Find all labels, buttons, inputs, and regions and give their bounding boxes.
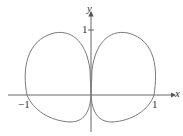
y-tick-label-1: 1 [82,23,88,35]
polar-plot [0,0,183,136]
curve [25,32,155,122]
x-tick-label-neg1: −1 [18,98,30,110]
x-tick-label-1: 1 [152,98,158,110]
x-axis-label: x [175,87,180,99]
y-axis-label: y [87,2,92,14]
